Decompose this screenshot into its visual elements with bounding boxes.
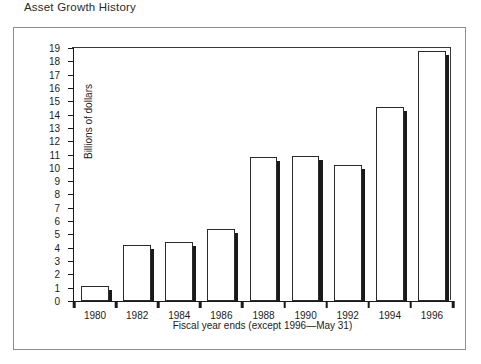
bar-1980[interactable] <box>81 286 109 301</box>
y-axis-tick: 9 <box>68 181 74 182</box>
page-title: Asset Growth History <box>24 1 136 13</box>
y-axis-tick: 17 <box>68 75 74 76</box>
chart-frame: Billions of dollars 01234567891011121314… <box>13 27 466 350</box>
y-axis-tick: 5 <box>68 234 74 235</box>
y-axis-tick-label: 0 <box>54 297 60 307</box>
y-axis-tick: 1 <box>68 288 74 289</box>
y-axis-tick: 2 <box>68 274 74 275</box>
y-axis-tick-label: 12 <box>49 137 60 147</box>
x-axis-title: Fiscal year ends (except 1996—May 31) <box>73 320 452 331</box>
y-axis-tick-label: 5 <box>54 230 60 240</box>
x-axis-tick <box>410 301 413 308</box>
y-axis-tick: 15 <box>68 101 74 102</box>
y-axis-tick-label: 7 <box>54 204 60 214</box>
y-axis-tick-label: 8 <box>54 190 60 200</box>
y-axis-tick-label: 9 <box>54 177 60 187</box>
y-axis-tick-label: 14 <box>49 111 60 121</box>
x-axis-tick <box>452 301 455 308</box>
x-axis-tick <box>283 301 286 308</box>
y-axis-tick: 14 <box>68 115 74 116</box>
y-axis-tick-label: 4 <box>54 244 60 254</box>
x-axis-tick <box>157 301 160 308</box>
y-axis-tick-label: 19 <box>49 44 60 54</box>
bar-1984[interactable] <box>165 242 193 301</box>
y-axis-tick-label: 1 <box>54 284 60 294</box>
y-axis-tick: 10 <box>68 168 74 169</box>
x-axis-tick <box>73 301 76 308</box>
y-axis-tick-label: 13 <box>49 124 60 134</box>
bar-1982[interactable] <box>123 245 151 301</box>
y-axis-tick: 13 <box>68 128 74 129</box>
x-axis-tick <box>367 301 370 308</box>
y-axis-tick-label: 3 <box>54 257 60 267</box>
bar-1988[interactable] <box>250 157 278 301</box>
x-axis-tick <box>115 301 118 308</box>
bar-1996[interactable] <box>418 51 446 301</box>
bar-1992[interactable] <box>334 165 362 301</box>
y-axis-tick: 6 <box>68 221 74 222</box>
y-axis-tick-label: 2 <box>54 270 60 280</box>
y-axis-tick-label: 15 <box>49 97 60 107</box>
y-axis-tick: 11 <box>68 155 74 156</box>
y-axis-tick-label: 17 <box>49 71 60 81</box>
y-axis-tick-label: 18 <box>49 57 60 67</box>
y-axis-tick-label: 16 <box>49 84 60 94</box>
y-axis-tick: 8 <box>68 194 74 195</box>
y-axis-tick: 3 <box>68 261 74 262</box>
x-axis-tick <box>199 301 202 308</box>
x-axis-tick <box>241 301 244 308</box>
y-axis-tick: 7 <box>68 208 74 209</box>
y-axis-tick: 18 <box>68 61 74 62</box>
y-axis-tick: 4 <box>68 248 74 249</box>
y-axis-tick-label: 6 <box>54 217 60 227</box>
y-axis-tick-label: 10 <box>49 164 60 174</box>
y-axis-tick: 19 <box>68 48 74 49</box>
y-axis-tick-label: 11 <box>50 151 60 161</box>
x-axis-tick <box>325 301 328 308</box>
plot-area: 0123456789101112131415161718191980198219… <box>73 48 453 302</box>
y-axis-tick: 12 <box>68 141 74 142</box>
y-axis-tick: 16 <box>68 88 74 89</box>
bar-1986[interactable] <box>207 229 235 301</box>
bar-1994[interactable] <box>376 107 404 301</box>
bar-1990[interactable] <box>292 156 320 301</box>
